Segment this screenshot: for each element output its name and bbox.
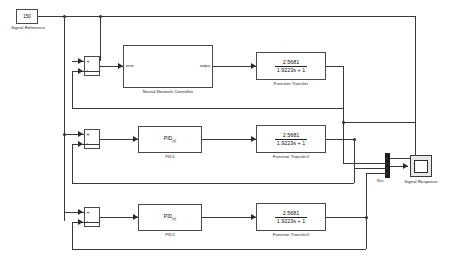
sum-3-sign-plus: + xyxy=(87,210,90,215)
scope-screen-icon xyxy=(414,160,428,173)
function-transfer-2-label: Function Transfer2 xyxy=(256,233,326,237)
arrow-sum2-plus xyxy=(78,131,83,137)
wire-fb2-return xyxy=(72,183,354,184)
wire-fb1-to-sum1-minus xyxy=(72,71,100,72)
wire-tf3-out xyxy=(326,217,366,218)
function-transfer-2-numerator: 2.5681 xyxy=(281,210,302,216)
pid-2-body-main: PID xyxy=(164,213,172,219)
arrow-sum1-plus xyxy=(78,58,83,64)
wire-fb2-down xyxy=(354,139,355,183)
wire-fb3-down xyxy=(366,217,367,249)
wire-fb2-to-sum2-minus xyxy=(72,144,100,145)
wire-tf1-down xyxy=(343,66,344,163)
signal-reference-value: 150 xyxy=(23,14,31,19)
signal-response-scope[interactable] xyxy=(410,155,432,177)
function-transfer-1-numerator: 2.5681 xyxy=(281,132,302,138)
function-transfer-2-denominator: 1.9223s + 1 xyxy=(275,217,307,224)
wire-pid1-to-tf1 xyxy=(202,139,256,140)
neural-network-controller-block[interactable]: error output xyxy=(123,45,213,88)
sum-block-2[interactable]: + - xyxy=(84,129,100,149)
mux-inport-3 xyxy=(385,167,388,170)
neural-network-controller-label: Neural Network Controller xyxy=(123,90,213,94)
wire-fb1-return xyxy=(72,108,343,109)
arrow-sum2-minus xyxy=(78,141,83,147)
function-transfer-numerator: 2.5681 xyxy=(281,59,302,65)
wire-tf2-to-mux xyxy=(354,168,385,169)
pid-1-body-sub: (s) xyxy=(172,139,176,143)
pid-1-body: PID(s) xyxy=(164,136,176,143)
wire-tf1-out xyxy=(326,66,343,67)
pid-1-label: PID1 xyxy=(138,155,202,159)
wire-nnc-to-tf xyxy=(213,66,256,67)
sum-block-1[interactable]: + - xyxy=(84,56,100,76)
wire-fb1-run xyxy=(343,122,415,123)
nnc-inport-label: error xyxy=(126,65,134,69)
signal-reference-block[interactable]: 150 xyxy=(16,9,38,24)
pid-2-block[interactable]: PID(s) xyxy=(138,204,202,231)
mux-inport-1 xyxy=(385,157,388,160)
sum-block-3[interactable]: + - xyxy=(84,207,100,227)
sum-1-sign-plus: + xyxy=(87,59,90,64)
arrow-sum1-minus xyxy=(78,68,83,74)
wire-ref-trunk-down xyxy=(64,16,65,221)
arrow-sum3-plus xyxy=(78,209,83,215)
wire-ref-to-mux-down xyxy=(415,16,416,158)
block-diagram-canvas: 150 Signal Reference + - error output Ne… xyxy=(0,0,451,263)
pid-2-body: PID(s) xyxy=(164,214,176,221)
wire-fb3-return xyxy=(72,249,366,250)
function-transfer-denominator: 1.9223s + 1 xyxy=(275,66,307,73)
mux-inport-2 xyxy=(385,162,388,165)
sum-2-sign-plus: + xyxy=(87,132,90,137)
pid-2-label: PID2 xyxy=(138,233,202,237)
function-transfer-1-label: Function Transfer1 xyxy=(256,155,326,159)
wire-fb2-into-sum xyxy=(72,144,73,183)
signal-reference-label: Signal Reference xyxy=(0,26,56,30)
function-transfer-label: Function Transfer xyxy=(256,82,326,86)
pid-1-body-main: PID xyxy=(164,135,172,141)
function-transfer-1-denominator: 1.9223s + 1 xyxy=(275,139,307,146)
function-transfer-2-block[interactable]: 2.5681 1.9223s + 1 xyxy=(256,203,326,231)
signal-response-label: Signal Response xyxy=(396,180,446,184)
wire-fb3-to-sum3-minus xyxy=(72,222,100,223)
function-transfer-block[interactable]: 2.5681 1.9223s + 1 xyxy=(256,52,326,80)
wire-tf1-to-mux xyxy=(343,163,385,164)
wire-tf2-out xyxy=(326,139,354,140)
wire-ref-out xyxy=(38,16,64,17)
arrow-scope-in xyxy=(403,163,408,169)
wire-ref-top-run xyxy=(64,16,415,17)
wire-tf3-up-to-mux xyxy=(366,173,367,217)
pid-2-body-sub: (s) xyxy=(172,217,176,221)
mux-label: Mux xyxy=(377,180,383,183)
wire-fb1-into-sum xyxy=(72,71,73,108)
wire-fb3-into-sum xyxy=(72,222,73,249)
function-transfer-1-block[interactable]: 2.5681 1.9223s + 1 xyxy=(256,125,326,153)
pid-1-block[interactable]: PID(s) xyxy=(138,126,202,153)
mux-inport-4 xyxy=(385,172,388,175)
wire-tf3-to-mux xyxy=(366,173,385,174)
arrow-sum3-minus xyxy=(78,219,83,225)
wire-ref-drop-1 xyxy=(100,16,101,61)
wire-pid2-to-tf2 xyxy=(202,217,256,218)
nnc-outport-label: output xyxy=(200,65,210,69)
